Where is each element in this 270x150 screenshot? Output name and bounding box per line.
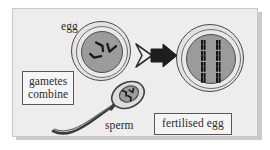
zygote-chromosome-8 xyxy=(215,73,221,82)
diagram-plate: egg sperm gametes combine fertilised egg xyxy=(12,8,258,137)
gametes-combine-label: gametes combine xyxy=(22,71,74,105)
zygote-chromosome-6 xyxy=(215,62,221,71)
egg-cytoplasm xyxy=(81,31,123,73)
fertilisation-arrow xyxy=(133,41,181,71)
zygote-chromosome-4 xyxy=(215,51,221,60)
zygote-chromosome-2 xyxy=(215,40,221,49)
zygote-chromosome-5 xyxy=(200,62,206,71)
zygote-chromosome-3 xyxy=(200,51,206,60)
fertilised-egg-cell xyxy=(176,24,244,92)
gametes-combine-line-1: gametes xyxy=(28,75,68,88)
zygote-chromosome-1 xyxy=(200,40,206,49)
gametes-combine-line-2: combine xyxy=(28,88,68,101)
egg-chromosome-2 xyxy=(103,42,120,59)
fertilised-egg-label: fertilised egg xyxy=(154,113,232,135)
egg-label: egg xyxy=(61,20,78,32)
zygote-chromosome-7 xyxy=(200,73,206,82)
fertilised-egg-cytoplasm xyxy=(186,34,236,84)
fertilisation-figure: egg sperm gametes combine fertilised egg xyxy=(0,0,270,150)
sperm-label: sperm xyxy=(105,119,134,131)
egg-cell xyxy=(71,21,131,81)
